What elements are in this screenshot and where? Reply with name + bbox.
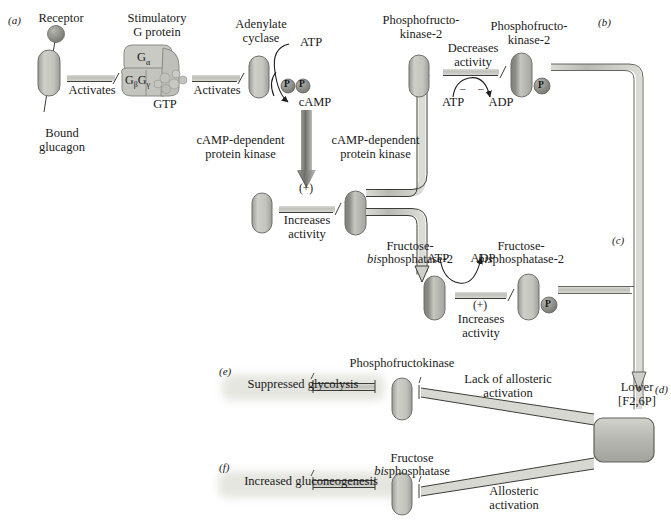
lower-f26p-label: Lower [F2,6P]: [606, 381, 668, 408]
increased-gluconeogenesis-label: Increased gluconeogenesis: [215, 475, 407, 489]
phosphate-label-1: P: [284, 79, 290, 89]
phosphate-label-b: P: [538, 80, 544, 90]
decreases-activity-label: Decreases activity: [442, 42, 504, 69]
allosteric-activation-label: Allosteric activation: [466, 485, 562, 512]
receptor-group: [38, 26, 65, 113]
panel-label-c: (c): [612, 234, 624, 246]
panel-c-output-line: [558, 287, 634, 294]
panel-label-e: (e): [219, 365, 231, 377]
stimulatory-g-protein-label: Stimulatory G protein: [110, 12, 204, 39]
minus-sign-2: –: [478, 82, 484, 94]
camp-dependent-kinase-arrow: [297, 110, 316, 188]
camp-kinase-label-right: cAMP-dependent protein kinase: [318, 134, 433, 161]
adp-label-b: ADP: [484, 96, 518, 110]
fbpase2-dephosphorylated-group: [518, 274, 557, 320]
adenylate-cyclase-label: Adenylate cyclase: [226, 18, 296, 45]
f26p-box-shape: [594, 418, 654, 462]
suppressed-glycolysis-label: Suppressed glycolysis: [224, 378, 382, 392]
atp-label-c: ATP: [421, 252, 455, 266]
gtp-label: GTP: [145, 98, 185, 112]
pfk2-unphosphorylated-shape: [409, 55, 429, 97]
pfk2-phosphorylated-group: [511, 53, 550, 97]
panel-label-a: (a): [8, 14, 21, 26]
plus-sign-fbpase2: (+): [461, 299, 499, 311]
camp-label: cAMP: [293, 96, 337, 110]
activates-label-2: Activates: [189, 84, 245, 98]
inactive-kinase-shape: [252, 193, 272, 233]
pfk2-substrate-label: Phosphofructo- kinase-2: [381, 14, 461, 41]
g-alpha-sub: α: [146, 58, 150, 67]
g-beta-main: G: [125, 73, 134, 87]
receptor-label: Receptor: [26, 12, 96, 26]
camp-kinase-label-left: cAMP-dependent protein kinase: [183, 134, 298, 161]
bound-glucagon-label: Bound glucagon: [22, 127, 102, 154]
fbpase-label-text: Fructose bisphosphatase: [374, 451, 450, 479]
diagram-canvas: (a) (b) (c) (d) (e) (f) Receptor Bound g…: [0, 0, 671, 523]
plus-sign-kinase: (+): [287, 182, 325, 194]
panel-label-f: (f): [219, 461, 229, 473]
fructose-bisphosphatase-label: Fructose bisphosphatase: [357, 438, 467, 479]
adp-label-c: ADP: [466, 252, 500, 266]
phosphate-label-c: P: [545, 299, 551, 309]
g-alpha-label: Gα: [137, 50, 150, 67]
phosphofructokinase-label: Phosphofructokinase: [322, 357, 482, 371]
phosphate-label-2: P: [299, 79, 305, 89]
fbpase2-phosphorylated-shape: [424, 276, 445, 320]
increases-activity-label-1: Increases activity: [274, 214, 340, 241]
phosphofructokinase-shape: [392, 378, 412, 420]
g-alpha-main: G: [137, 50, 146, 64]
increases-activity-label-2: Increases activity: [448, 313, 514, 340]
minus-sign-1: –: [460, 82, 466, 94]
atp-label-a: ATP: [294, 36, 328, 50]
camp-reaction-arrows: [271, 44, 289, 102]
panel-label-b: (b): [598, 16, 611, 28]
g-beta-gamma-label: GβGγ: [125, 73, 150, 89]
adenylate-cyclase-shape: [249, 56, 269, 98]
lack-of-allosteric-activation-label: Lack of allosteric activation: [452, 373, 564, 400]
g-gamma-sub: γ: [146, 80, 150, 89]
activates-label-1: Activates: [64, 84, 120, 98]
atp-label-b: ATP: [436, 96, 470, 110]
